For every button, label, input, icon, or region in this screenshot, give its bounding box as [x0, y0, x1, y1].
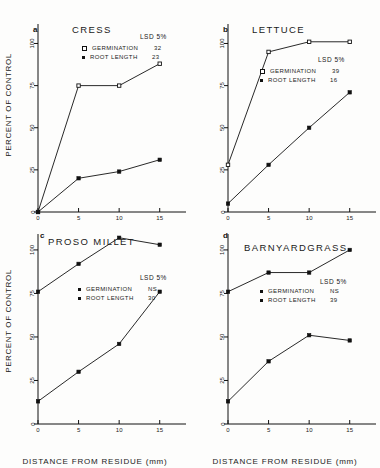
- panel-b-legend: GERMINATION 39 ROOT LENGTH 16: [260, 67, 350, 85]
- svg-text:25: 25: [30, 376, 36, 383]
- legend-label-germination: GERMINATION: [270, 68, 332, 74]
- svg-text:50: 50: [220, 124, 226, 131]
- panel-c-title: PROSO MILLET: [48, 236, 135, 247]
- svg-text:15: 15: [346, 427, 353, 433]
- panel-d-xlabel: DISTANCE FROM RESIDUE (mm): [190, 457, 380, 466]
- svg-text:0: 0: [30, 210, 36, 214]
- svg-text:75: 75: [220, 82, 226, 89]
- svg-text:15: 15: [346, 215, 353, 221]
- panel-c-legend: GERMINATION NS ROOT LENGTH 30: [78, 285, 166, 303]
- legend-label-germination: GERMINATION: [92, 45, 154, 51]
- legend-label-root-length: ROOT LENGTH: [268, 297, 330, 303]
- legend-lsd-root-length: 30: [148, 295, 166, 301]
- svg-text:0: 0: [226, 215, 230, 221]
- panel-c-proso-millet: 0255075100051015 c PROSO MILLET LSD 5% G…: [0, 234, 190, 468]
- legend-label-root-length: ROOT LENGTH: [86, 295, 148, 301]
- svg-text:0: 0: [36, 427, 40, 433]
- panel-b-lettuce: 0255075100051015 b LETTUCE LSD 5% GERMIN…: [190, 0, 380, 234]
- panel-d-plot: 0255075100051015: [190, 234, 380, 468]
- svg-text:75: 75: [220, 289, 226, 296]
- svg-text:5: 5: [77, 427, 81, 433]
- svg-text:5: 5: [77, 215, 81, 221]
- panel-a-title: CRESS: [72, 24, 112, 35]
- figure-plate: 0255075100051015 a CRESS LSD 5% GERMINAT…: [0, 0, 380, 468]
- svg-text:10: 10: [116, 215, 123, 221]
- svg-text:75: 75: [30, 82, 36, 89]
- legend-lsd-germination: 39: [332, 68, 350, 74]
- svg-text:0: 0: [36, 215, 40, 221]
- filled-square-marker-icon: [78, 288, 81, 291]
- legend-lsd-root-length: 16: [330, 77, 348, 83]
- panel-b-plot: 0255075100051015: [190, 0, 380, 234]
- panel-c-letter: c: [40, 231, 44, 240]
- legend-row-root-length: ROOT LENGTH 39: [260, 296, 348, 304]
- svg-text:50: 50: [30, 124, 36, 131]
- svg-text:25: 25: [30, 166, 36, 173]
- legend-lsd-root-length: 23: [152, 54, 170, 60]
- panel-d-letter: d: [223, 231, 228, 240]
- filled-square-marker-icon: [260, 290, 263, 293]
- legend-lsd-root-length: 39: [330, 297, 348, 303]
- svg-text:15: 15: [156, 427, 163, 433]
- legend-row-germination: GERMINATION 39: [260, 67, 350, 75]
- legend-row-germination: GERMINATION NS: [78, 285, 166, 293]
- svg-text:25: 25: [220, 166, 226, 173]
- svg-text:100: 100: [30, 38, 36, 49]
- filled-square-marker-icon: [260, 79, 263, 82]
- svg-text:5: 5: [267, 215, 271, 221]
- svg-text:100: 100: [220, 38, 226, 49]
- svg-text:5: 5: [267, 427, 271, 433]
- panel-c-ylabel-wrap: PERCENT OF CONTROL: [6, 226, 20, 436]
- panel-a-letter: a: [33, 25, 37, 34]
- svg-text:10: 10: [306, 427, 313, 433]
- filled-square-marker-icon: [82, 56, 85, 59]
- filled-square-marker-icon: [260, 299, 263, 302]
- panel-a-legend: GERMINATION 32 ROOT LENGTH 23: [82, 44, 172, 62]
- legend-label-germination: GERMINATION: [86, 286, 148, 292]
- panel-c-xlabel: DISTANCE FROM RESIDUE (mm): [0, 457, 190, 466]
- legend-row-germination: GERMINATION 32: [82, 44, 172, 52]
- svg-text:50: 50: [30, 333, 36, 340]
- panel-c-ylabel: PERCENT OF CONTROL: [4, 226, 18, 416]
- panel-a-ylabel-wrap: PERCENT OF CONTROL: [6, 10, 20, 220]
- legend-lsd-germination: NS: [148, 286, 166, 292]
- panel-a-cress: 0255075100051015 a CRESS LSD 5% GERMINAT…: [0, 0, 190, 234]
- svg-text:25: 25: [220, 376, 226, 383]
- panel-d-barnyardgrass: 0255075100051015 d BARNYARDGRASS LSD 5% …: [190, 234, 380, 468]
- panel-d-title: BARNYARDGRASS: [244, 242, 348, 253]
- svg-text:10: 10: [116, 427, 123, 433]
- svg-text:75: 75: [30, 289, 36, 296]
- legend-row-germination: GERMINATION NS: [260, 287, 348, 295]
- svg-text:0: 0: [220, 210, 226, 214]
- svg-text:0: 0: [226, 427, 230, 433]
- legend-row-root-length: ROOT LENGTH 16: [260, 76, 350, 84]
- panel-b-title: LETTUCE: [252, 24, 305, 35]
- legend-lsd-germination: 32: [154, 45, 172, 51]
- filled-square-marker-icon: [78, 297, 81, 300]
- legend-label-germination: GERMINATION: [268, 288, 330, 294]
- panel-a-lsd-header: LSD 5%: [140, 33, 167, 40]
- svg-text:100: 100: [220, 244, 226, 255]
- svg-text:15: 15: [156, 215, 163, 221]
- legend-label-root-length: ROOT LENGTH: [90, 54, 152, 60]
- legend-label-root-length: ROOT LENGTH: [268, 77, 330, 83]
- panel-c-plot: 0255075100051015: [0, 234, 190, 468]
- open-square-marker-icon: [260, 69, 265, 74]
- panel-d-legend: GERMINATION NS ROOT LENGTH 39: [260, 287, 348, 305]
- svg-text:100: 100: [30, 244, 36, 255]
- panel-a-ylabel: PERCENT OF CONTROL: [4, 10, 18, 200]
- svg-text:50: 50: [220, 333, 226, 340]
- legend-lsd-germination: NS: [330, 288, 348, 294]
- open-square-marker-icon: [82, 46, 87, 51]
- svg-text:0: 0: [220, 422, 226, 426]
- panel-c-lsd-header: LSD 5%: [140, 274, 167, 281]
- panel-b-letter: b: [223, 25, 228, 34]
- legend-row-root-length: ROOT LENGTH 30: [78, 294, 166, 302]
- svg-text:0: 0: [30, 422, 36, 426]
- legend-row-root-length: ROOT LENGTH 23: [82, 53, 172, 61]
- panel-d-lsd-header: LSD 5%: [320, 278, 347, 285]
- panel-b-lsd-header: LSD 5%: [318, 56, 345, 63]
- svg-text:10: 10: [306, 215, 313, 221]
